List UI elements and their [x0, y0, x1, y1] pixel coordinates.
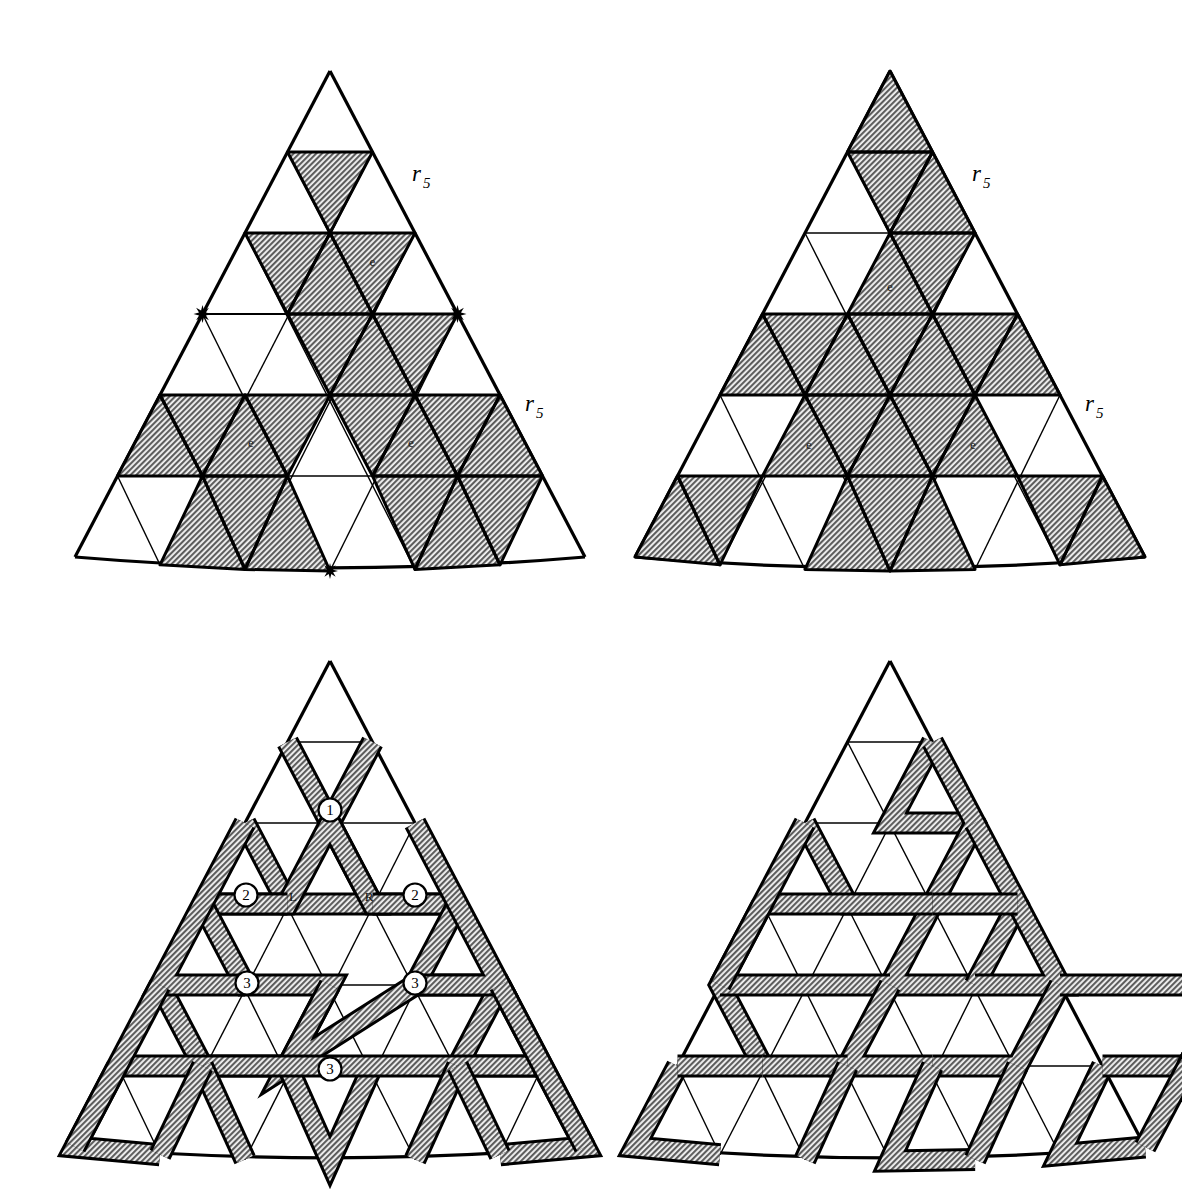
star-glyph: [194, 305, 212, 323]
circled-number: 3: [319, 1058, 342, 1081]
band-fill: [288, 985, 416, 1066]
r5-base: r: [412, 161, 422, 186]
r5-label: r5: [525, 391, 544, 421]
band-fill: [890, 1066, 975, 1161]
band-fill: [848, 985, 933, 1066]
star-marker: [322, 563, 338, 579]
e-label: e: [248, 435, 254, 450]
label-R: R: [365, 889, 374, 904]
ribbon-band: [160, 1066, 203, 1155]
circled-number: 3: [236, 972, 259, 995]
circled-number: 3: [404, 972, 427, 995]
circled-number: 2: [235, 884, 258, 907]
circled-number: 1: [319, 799, 342, 822]
star-marker: [194, 305, 212, 323]
r5-base: r: [525, 391, 535, 416]
r5-label: r5: [1085, 391, 1104, 421]
e-label: e: [408, 435, 414, 450]
ribbon-band: [975, 1066, 1018, 1159]
ribbon-band: [203, 1066, 246, 1159]
shaded-cells: [118, 152, 543, 571]
star-marker: [449, 305, 467, 323]
ribbon-band: [933, 985, 1061, 1066]
r5-base: r: [1085, 391, 1095, 416]
label-L: L: [289, 889, 297, 904]
band-fill: [203, 1066, 246, 1159]
ribbon-band: [288, 985, 416, 1066]
ribbon-band: [1060, 985, 1182, 1066]
e-label: e: [370, 254, 376, 269]
ribbon-band: [805, 823, 933, 904]
band-fill: [975, 1066, 1018, 1159]
band-fill: [805, 1066, 848, 1159]
star-glyph: [322, 563, 338, 579]
shaded-cell: [848, 71, 933, 152]
grid-line: [118, 476, 161, 565]
r5-label: r5: [972, 161, 991, 191]
band-fill: [890, 904, 975, 985]
figure-root: r5r5eee r5r5eee 122333LR: [0, 0, 1182, 1200]
panel-top-right: r5r5eee: [600, 55, 1160, 575]
ribbon-band: [415, 1066, 458, 1159]
e-label: e: [887, 279, 893, 294]
shaded-cells: [635, 71, 1145, 571]
band-fill: [458, 1066, 501, 1155]
band-outline: [1060, 985, 1182, 1066]
panel-bottom-right: [600, 645, 1160, 1165]
ribbon-band: [890, 1066, 975, 1161]
star-glyph: [449, 305, 467, 323]
circled-number-text: 1: [326, 802, 334, 818]
r5-label: r5: [412, 161, 431, 191]
e-label: e: [970, 437, 976, 452]
ribbon-band: [635, 1066, 720, 1155]
ribbon-band: [848, 985, 933, 1066]
r5-base: r: [972, 161, 982, 186]
r5-subscript: 5: [423, 175, 431, 191]
shaded-cell: [288, 152, 373, 233]
circled-number: 2: [404, 884, 427, 907]
circled-number-text: 2: [411, 887, 419, 903]
band-fill: [160, 1066, 203, 1155]
circled-number-text: 3: [411, 975, 419, 991]
band-fill: [415, 1066, 458, 1159]
circled-number-text: 2: [242, 887, 250, 903]
ribbon-band: [890, 904, 975, 985]
r5-subscript: 5: [1096, 405, 1104, 421]
panel-top-left: r5r5eee: [40, 55, 600, 575]
panel-bottom-left: 122333LR: [40, 645, 600, 1165]
circled-number-text: 3: [326, 1061, 334, 1077]
circled-number-text: 3: [243, 975, 251, 991]
ribbon-band: [160, 985, 288, 1066]
e-label: e: [806, 437, 812, 452]
ribbon-band: [805, 1066, 848, 1159]
ribbon-band: [1060, 1066, 1145, 1155]
ribbon-band: [458, 1066, 501, 1155]
band-fill: [1060, 985, 1182, 1066]
r5-subscript: 5: [536, 405, 544, 421]
r5-subscript: 5: [983, 175, 991, 191]
